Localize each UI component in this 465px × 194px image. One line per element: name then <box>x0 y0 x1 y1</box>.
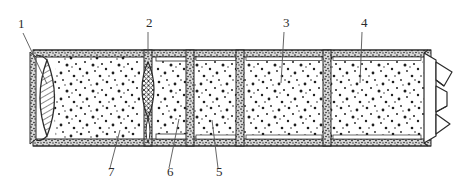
patent-figure: 1 2 3 4 5 6 7 <box>0 0 465 194</box>
callout-label-5: 5 <box>216 164 223 179</box>
chamber-two <box>156 57 186 139</box>
top-casing-wall <box>33 50 431 57</box>
twist-core <box>436 86 447 112</box>
casing-body <box>30 50 452 146</box>
lens-end-closure <box>30 52 55 144</box>
twist-flap-lower <box>436 114 450 134</box>
twist-neck <box>424 53 436 143</box>
chamber-four <box>244 57 323 139</box>
figure-canvas: 1 2 3 4 5 6 7 <box>0 0 465 194</box>
callout-label-6: 6 <box>167 164 174 179</box>
crosshatch-lens-stem <box>146 118 150 143</box>
plain-divider-b <box>236 50 244 146</box>
crosshatched-partition <box>142 50 154 146</box>
bottom-casing-wall <box>33 139 431 146</box>
plain-divider-a <box>186 50 194 146</box>
chamber-five <box>331 57 425 139</box>
chamber-three <box>194 57 236 139</box>
callout-label-2: 2 <box>146 15 153 30</box>
twisted-end-closure <box>424 50 452 146</box>
chamber-one <box>54 57 140 139</box>
callout-label-1: 1 <box>18 16 25 31</box>
left-lens-closure <box>40 60 55 136</box>
callout-label-7: 7 <box>108 164 115 179</box>
callout-label-3: 3 <box>283 15 290 30</box>
callout-label-4: 4 <box>361 15 368 30</box>
left-end-wall <box>30 52 36 144</box>
plain-divider-c <box>323 50 331 146</box>
